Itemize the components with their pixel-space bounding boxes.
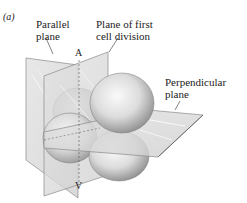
parallel-plane-label-line2: plane [36, 30, 60, 42]
perpendicular-plane-label-line2: plane [165, 88, 189, 100]
animal-pole-label: A [75, 47, 82, 59]
perpendicular-plane-label-line1: Perpendicular [165, 76, 226, 88]
vegetal-pole-label: V [75, 180, 82, 192]
upper-right-blastomere [90, 73, 154, 133]
first-division-plane-label-line1: Plane of first [96, 18, 153, 30]
perpendicular-plane-leader [175, 101, 180, 110]
parallel-plane-label-line1: Parallel [36, 18, 70, 30]
panel-label: (a) [3, 11, 15, 23]
cleavage-planes-diagram: (a) Parallel plane Plane of first cell d… [0, 0, 247, 203]
first-division-plane-label-line2: cell division [96, 30, 150, 42]
